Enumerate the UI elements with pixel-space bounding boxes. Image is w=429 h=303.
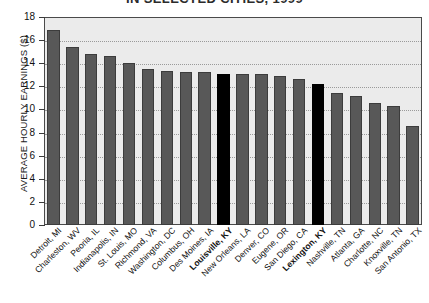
y-axis-tick-label: 2 — [0, 197, 35, 207]
chart-title: IN SELECTED CITIES, 1999 — [0, 0, 429, 6]
y-axis-tick-label: 14 — [0, 58, 35, 68]
bar — [236, 74, 248, 225]
bar — [198, 72, 210, 225]
y-axis-tick-label: 16 — [0, 35, 35, 45]
bar — [123, 63, 135, 225]
bar — [66, 47, 78, 225]
bar — [350, 96, 362, 225]
y-axis-tick-label: 6 — [0, 151, 35, 161]
bar — [47, 30, 59, 225]
bar — [312, 84, 324, 225]
bar — [104, 56, 116, 225]
y-axis-tick-label: 12 — [0, 81, 35, 91]
bar-series — [44, 17, 422, 225]
chart-title-clipped: IN SELECTED CITIES, 1999 — [0, 0, 429, 7]
bar — [180, 72, 192, 225]
y-axis-tick-label: 10 — [0, 104, 35, 114]
y-axis-tick-label: 18 — [0, 12, 35, 22]
y-axis-tick-label: 8 — [0, 128, 35, 138]
bar — [331, 93, 343, 225]
bar — [85, 54, 97, 225]
y-axis-tick-label: 4 — [0, 174, 35, 184]
bar — [142, 69, 154, 225]
bar — [293, 79, 305, 225]
bar — [369, 103, 381, 225]
bar — [217, 74, 229, 225]
bar — [161, 71, 173, 225]
bar — [406, 126, 418, 225]
bar — [274, 76, 286, 225]
bar — [255, 74, 267, 225]
x-axis-labels: Detroit, MICharleston, WVPeoria, ILIndia… — [44, 226, 422, 303]
y-axis-tick-label: 0 — [0, 220, 35, 230]
bar — [387, 106, 399, 225]
